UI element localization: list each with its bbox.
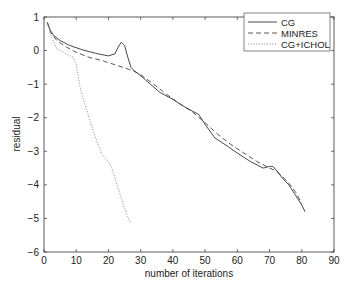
y-tick-label: 1 xyxy=(33,12,39,23)
y-tick-label: −1 xyxy=(28,79,40,90)
x-tick-label: 20 xyxy=(103,255,115,266)
x-tick-label: 50 xyxy=(200,255,212,266)
plot-area xyxy=(44,17,334,252)
residual-chart: 0102030405060708090 10−1−2−3−4−5−6 numbe… xyxy=(0,0,356,285)
x-tick-label: 70 xyxy=(264,255,276,266)
legend-item: CG+ICHOL xyxy=(281,39,330,50)
legend-item: CG xyxy=(281,17,295,28)
x-tick-label: 60 xyxy=(232,255,244,266)
x-axis-label: number of iterations xyxy=(145,268,233,279)
y-tick-label: −6 xyxy=(28,247,40,258)
x-tick-label: 40 xyxy=(167,255,179,266)
x-tick-label: 80 xyxy=(296,255,308,266)
y-axis-label: residual xyxy=(11,116,22,151)
y-tick-label: −3 xyxy=(28,146,40,157)
x-tick-label: 0 xyxy=(41,255,47,266)
legend-item: MINRES xyxy=(281,28,318,39)
y-tick-label: −5 xyxy=(28,213,40,224)
y-tick-label: −4 xyxy=(28,179,40,190)
x-tick-label: 30 xyxy=(135,255,147,266)
y-tick-label: −2 xyxy=(28,112,40,123)
legend: CGMINRESCG+ICHOL xyxy=(244,13,330,51)
x-tick-label: 10 xyxy=(71,255,83,266)
x-tick-label: 90 xyxy=(328,255,340,266)
y-tick-label: 0 xyxy=(33,45,39,56)
